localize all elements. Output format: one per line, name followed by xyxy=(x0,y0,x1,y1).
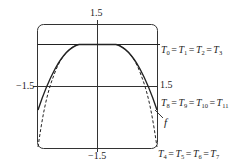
y-min-label: −1.5 xyxy=(88,151,106,161)
equation-t8-t11: T8=T9=T10=T11 xyxy=(161,97,228,111)
equation-t4-t7: T4=T5=T6=T7 xyxy=(158,148,219,162)
plot-figure xyxy=(0,0,247,167)
x-min-label: −1.5 xyxy=(16,81,34,91)
equation-t0-t3: T0=T1=T2=T3 xyxy=(161,44,222,58)
f-pointer xyxy=(155,110,163,118)
y-max-label: 1.5 xyxy=(90,8,103,18)
x-max-label: 1.5 xyxy=(160,80,173,90)
function-label-f: f xyxy=(164,117,167,127)
